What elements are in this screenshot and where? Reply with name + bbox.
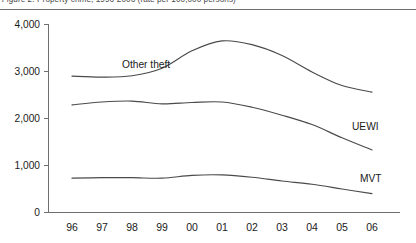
series-line-uewi <box>72 101 372 150</box>
x-axis-tick-label: 02 <box>246 221 258 233</box>
figure-container: Figure 2. Property crime, 1996-2006 (rat… <box>0 0 416 243</box>
chart-series-labels: Other theftUEWIMVT <box>122 59 382 184</box>
chart-plot-area: 01,0002,0003,0004,000 969798990001020304… <box>0 10 416 243</box>
x-axis-tick-label: 05 <box>336 221 348 233</box>
y-axis-tick-label: 0 <box>34 207 40 218</box>
x-axis-tick-label: 98 <box>126 221 138 233</box>
line-chart: 01,0002,0003,0004,000 969798990001020304… <box>0 10 416 243</box>
figure-caption-text: Property crime, 1996-2006 (rate per 100,… <box>37 0 236 4</box>
chart-series-group <box>72 41 372 194</box>
y-axis-tick-label: 4,000 <box>15 19 41 30</box>
x-axis-tick-label: 06 <box>366 221 378 233</box>
series-label-other-theft: Other theft <box>122 59 170 70</box>
y-axis-ticks <box>44 25 48 213</box>
y-axis-tick-label: 1,000 <box>15 160 41 171</box>
x-axis-tick-label: 97 <box>96 221 108 233</box>
figure-caption: Figure 2. Property crime, 1996-2006 (rat… <box>0 0 416 6</box>
x-axis-tick-label: 00 <box>186 221 198 233</box>
series-line-other-theft <box>72 41 372 92</box>
x-axis-tick-label: 01 <box>216 221 228 233</box>
series-line-mvt <box>72 175 372 194</box>
y-axis-tick-labels: 01,0002,0003,0004,000 <box>15 19 41 218</box>
series-label-mvt: MVT <box>360 173 382 184</box>
x-axis-tick-label: 99 <box>156 221 168 233</box>
x-axis-tick-label: 04 <box>306 221 318 233</box>
chart-axes <box>44 24 400 213</box>
x-axis-tick-labels: 9697989900010203040506 <box>66 221 378 233</box>
x-axis-tick-label: 96 <box>66 221 78 233</box>
y-axis-tick-label: 2,000 <box>15 113 41 124</box>
x-axis-tick-label: 03 <box>276 221 288 233</box>
figure-caption-prefix: Figure 2. <box>0 0 35 4</box>
y-axis-tick-label: 3,000 <box>15 66 41 77</box>
series-label-uewi: UEWI <box>352 121 379 132</box>
